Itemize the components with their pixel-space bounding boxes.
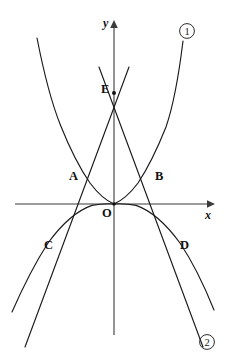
point-label-o: O xyxy=(102,206,112,220)
x-axis-label: x xyxy=(204,208,211,222)
point-label-b: B xyxy=(155,169,163,183)
point-label-e: E xyxy=(101,82,109,96)
curve-tag-1: 1 xyxy=(180,24,195,39)
point-label-c: C xyxy=(44,238,53,252)
curve-tag-2-text: 2 xyxy=(204,337,209,348)
y-axis-arrowhead xyxy=(110,20,118,28)
x-axis-arrowhead xyxy=(207,200,215,208)
line-through-e-a-c xyxy=(25,67,129,347)
curve-tag-1-text: 1 xyxy=(184,26,189,37)
y-axis xyxy=(110,20,118,335)
line-through-e-b-d xyxy=(99,67,203,347)
coordinate-plane-svg: 1 2 x y A B C D E O xyxy=(0,0,226,359)
point-label-d: D xyxy=(180,238,189,252)
point-marker-e xyxy=(112,91,116,95)
geometry-figure: 1 2 x y A B C D E O xyxy=(0,0,226,359)
point-label-a: A xyxy=(69,169,78,183)
curve-tag-2: 2 xyxy=(200,335,215,350)
y-axis-label: y xyxy=(101,16,109,30)
point-marker-o xyxy=(112,202,115,205)
